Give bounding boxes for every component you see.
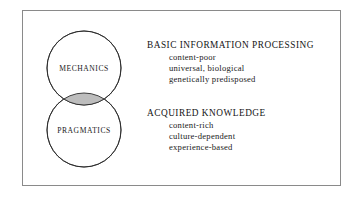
mechanics-label: MECHANICS bbox=[59, 64, 109, 73]
venn-diagram: MECHANICS PRAGMATICS bbox=[39, 23, 131, 177]
pragmatics-label: PRAGMATICS bbox=[57, 126, 111, 135]
block-basic-information-processing: BASIC INFORMATION PROCESSING content-poo… bbox=[147, 39, 342, 86]
list-item: universal, biological bbox=[169, 63, 342, 74]
block-acquired-knowledge: ACQUIRED KNOWLEDGE content-rich culture-… bbox=[147, 107, 342, 154]
block-heading: ACQUIRED KNOWLEDGE bbox=[147, 107, 342, 120]
list-item: content-poor bbox=[169, 52, 342, 63]
figure-root: MECHANICS PRAGMATICS BASIC INFORMATION P… bbox=[0, 0, 357, 200]
list-item: content-rich bbox=[169, 120, 342, 131]
list-item: culture-dependent bbox=[169, 131, 342, 142]
text-column: BASIC INFORMATION PROCESSING content-poo… bbox=[147, 39, 342, 153]
diagram-frame: MECHANICS PRAGMATICS BASIC INFORMATION P… bbox=[22, 10, 341, 186]
block-item-list: content-poor universal, biological genet… bbox=[147, 52, 342, 86]
list-item: experience-based bbox=[169, 142, 342, 153]
list-item: genetically predisposed bbox=[169, 74, 342, 85]
block-item-list: content-rich culture-dependent experienc… bbox=[147, 120, 342, 154]
block-heading: BASIC INFORMATION PROCESSING bbox=[147, 39, 342, 52]
